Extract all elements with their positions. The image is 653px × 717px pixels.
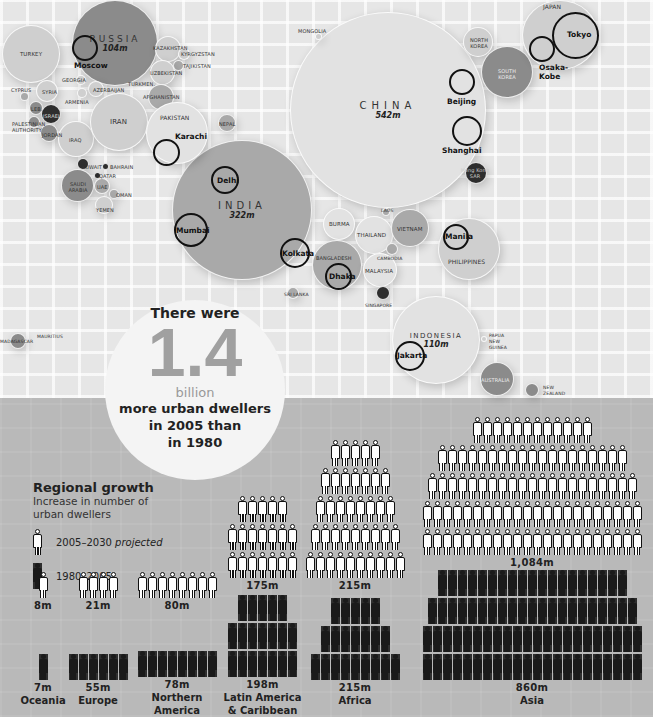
label-north-korea: NORTH KOREA: [468, 37, 490, 49]
headline-number: 1.4: [105, 321, 285, 383]
person-solid-icon: [548, 570, 557, 596]
person-outline-icon: [528, 473, 537, 499]
person-solid-icon: [381, 654, 390, 680]
label-qatar: QATAR: [99, 173, 116, 179]
person-solid-icon: [453, 654, 462, 680]
bubble-singapore: [376, 286, 390, 300]
pictogram-row: [331, 598, 380, 624]
person-outline-icon: [573, 417, 582, 443]
person-outline-icon: [598, 473, 607, 499]
person-solid-icon: [321, 626, 330, 652]
label-south-korea: SOUTH KOREA: [495, 68, 519, 80]
person-outline-icon: [361, 440, 370, 466]
person-outline-icon: [376, 552, 385, 578]
headline-line2: more urban dwellers: [105, 400, 285, 417]
person-solid-icon: [288, 651, 297, 677]
person-outline-icon: [248, 496, 257, 522]
person-solid-icon: [361, 654, 370, 680]
person-outline-icon: [79, 572, 88, 598]
past-value: 198m: [246, 679, 279, 691]
projected-value: 175m: [246, 580, 279, 592]
person-outline-icon: [468, 445, 477, 471]
person-solid-icon: [119, 654, 128, 680]
person-outline-icon: [371, 468, 380, 494]
person-outline-icon: [228, 552, 237, 578]
label-thailand: THAILAND: [357, 232, 386, 238]
city-ring-moscow: [72, 35, 98, 61]
person-solid-icon: [268, 651, 277, 677]
person-solid-icon: [523, 626, 532, 652]
person-solid-icon: [503, 626, 512, 652]
person-outline-icon: [523, 417, 532, 443]
person-solid-icon: [508, 598, 517, 624]
person-solid-icon: [508, 570, 517, 596]
person-outline-icon: [356, 496, 365, 522]
pictogram-row: [423, 626, 642, 652]
person-solid-icon: [498, 598, 507, 624]
label-new-zealand: NEW ZEALAND: [543, 385, 569, 397]
person-solid-icon: [443, 626, 452, 652]
person-solid-icon: [518, 570, 527, 596]
person-solid-icon: [558, 570, 567, 596]
person-solid-icon: [583, 654, 592, 680]
person-solid-icon: [381, 626, 390, 652]
city-ring-karachi: [153, 139, 180, 166]
label-lebanon: LEB.: [31, 106, 42, 112]
person-solid-icon: [258, 595, 267, 621]
person-outline-icon: [278, 552, 287, 578]
region-africa-past: 215mAfrica: [300, 598, 410, 707]
person-outline-icon: [248, 552, 257, 578]
label-vietnam: VIETNAM: [397, 226, 423, 232]
pictogram-row: [138, 572, 217, 598]
person-outline-icon: [321, 468, 330, 494]
person-solid-icon: [99, 654, 108, 680]
person-outline-icon: [306, 552, 315, 578]
past-value: 78m: [164, 679, 189, 691]
label-jordan: JORDAN: [42, 132, 62, 138]
person-solid-icon: [438, 598, 447, 624]
past-value: 860m: [516, 682, 549, 694]
person-solid-icon: [563, 626, 572, 652]
person-solid-icon: [588, 598, 597, 624]
person-outline-icon: [168, 572, 177, 598]
person-solid-icon: [578, 570, 587, 596]
label-burma: BURMA: [329, 221, 350, 227]
person-solid-icon: [483, 626, 492, 652]
label-oman: OMAN: [116, 192, 132, 198]
person-outline-icon: [391, 524, 400, 550]
label-bahrain: BAHRAIN: [110, 164, 133, 170]
person-outline-icon: [558, 445, 567, 471]
person-outline-icon: [258, 496, 267, 522]
person-outline-icon: [563, 529, 572, 555]
person-outline-icon: [386, 496, 395, 522]
person-outline-icon: [603, 501, 612, 527]
label-iran: IRAN: [110, 119, 127, 125]
person-solid-icon: [371, 654, 380, 680]
person-outline-icon: [311, 524, 320, 550]
label-papua-new-guinea: PAPUA NEW GUINEA: [489, 333, 513, 351]
person-outline-icon: [468, 473, 477, 499]
label-kyrgyzstan: KYRGYZSTAN: [181, 51, 215, 57]
person-outline-icon: [478, 473, 487, 499]
person-outline-icon: [633, 501, 642, 527]
region-europe-proj: 21m: [73, 572, 123, 612]
person-outline-icon: [89, 572, 98, 598]
label-hong-kong: Hong Kong SAR: [460, 167, 490, 179]
person-outline-icon: [361, 468, 370, 494]
person-outline-icon: [543, 529, 552, 555]
pictogram-row: [238, 595, 287, 621]
person-outline-icon: [508, 445, 517, 471]
person-solid-icon: [493, 654, 502, 680]
person-solid-icon: [453, 626, 462, 652]
person-solid-icon: [458, 598, 467, 624]
person-outline-icon: [268, 552, 277, 578]
bubble-turkey: TURKEY: [2, 25, 60, 83]
label-georgia: GEORGIA: [62, 77, 86, 83]
person-solid-icon: [258, 623, 267, 649]
city-label-tokyo: Tokyo: [567, 30, 591, 39]
person-solid-icon: [503, 654, 512, 680]
person-solid-icon: [563, 654, 572, 680]
person-outline-icon: [568, 473, 577, 499]
person-outline-icon: [558, 473, 567, 499]
person-solid-icon: [433, 654, 442, 680]
